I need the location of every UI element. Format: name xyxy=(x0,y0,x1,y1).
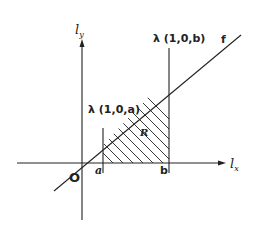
x-axis-label: lx xyxy=(230,156,239,173)
y-axis-label: ly xyxy=(75,22,84,39)
origin-label: O xyxy=(69,170,80,185)
tick-a-label: a xyxy=(95,164,102,177)
line-f-label: f xyxy=(221,33,226,46)
x-axis-arrow-icon xyxy=(218,161,226,166)
y-axis-arrow-icon xyxy=(80,39,85,47)
region-r-label: R xyxy=(139,127,148,138)
lambda-a-label: λ (1,0,a) xyxy=(88,103,140,116)
lambda-b-label: λ (1,0,b) xyxy=(153,32,205,45)
diagram-canvas: ly lx O f λ (1,0,a) λ (1,0,b) a b R xyxy=(0,0,257,225)
tick-b-label: b xyxy=(160,164,168,177)
region-r-hatching xyxy=(10,70,220,170)
